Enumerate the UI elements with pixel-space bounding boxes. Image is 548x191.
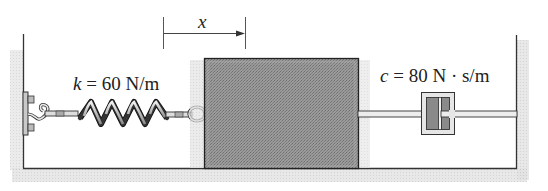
spring-value: 60 N/m	[102, 73, 160, 94]
mass-spring-damper-diagram: x k = 60 N/m	[0, 0, 548, 191]
displacement-dimension: x	[164, 11, 246, 49]
bolt-icon	[28, 124, 34, 131]
spring	[45, 102, 205, 124]
spring-constant-label: k = 60 N/m	[73, 73, 159, 94]
damping-coefficient-label: c = 80 N · s/m	[380, 65, 490, 86]
bolt-icon	[28, 96, 34, 103]
damper-equals: =	[388, 65, 408, 86]
damper	[358, 93, 517, 135]
mass-block	[205, 59, 359, 169]
wall-anchor	[23, 92, 48, 135]
arrow-right-icon	[236, 31, 245, 37]
damper-value: 80 N · s/m	[409, 65, 490, 86]
spring-equals: =	[81, 73, 101, 94]
displacement-label: x	[197, 11, 207, 32]
block-shadow	[190, 60, 204, 168]
